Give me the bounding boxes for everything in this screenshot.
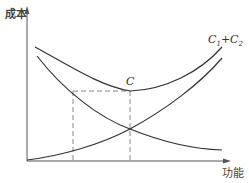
total-curve-label-plus: +: [221, 33, 230, 46]
total-curve-label: C1+C2: [208, 34, 243, 48]
c2-increasing-curve: [27, 58, 222, 160]
diagram-canvas: [0, 0, 249, 183]
x-axis-arrow-icon: [223, 159, 231, 164]
curves: [27, 47, 222, 160]
x-axis-label: 功能: [222, 168, 244, 179]
total-curve-label-sub2: 2: [239, 40, 243, 48]
cost-function-diagram: 成本 功能 C C1+C2: [0, 0, 249, 183]
point-c-label: C: [126, 76, 134, 87]
y-axis-label: 成本: [5, 9, 27, 20]
total-curve-label-c2: C: [230, 33, 238, 46]
